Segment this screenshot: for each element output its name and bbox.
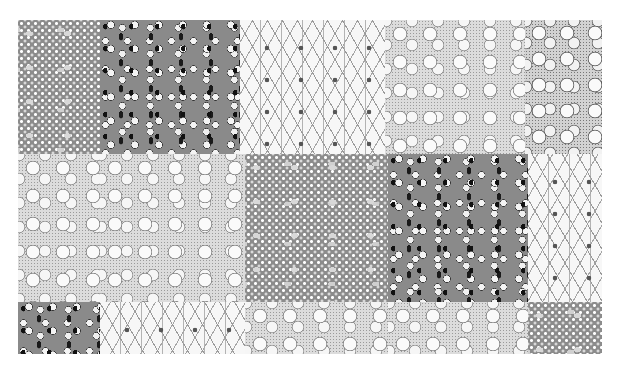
quilt-patch-lattice xyxy=(100,302,245,354)
quilt-patch-dots xyxy=(18,20,100,154)
quilt-patch-dots xyxy=(245,154,388,302)
quilt-patch-floral xyxy=(388,302,528,354)
quilt-patch-floral-dense xyxy=(525,20,602,154)
quilt-patch-floral xyxy=(18,154,100,302)
quilt-patch-floral xyxy=(245,302,388,354)
quilt-patch-lattice xyxy=(528,154,602,302)
quilt-patch-tulip xyxy=(100,20,240,154)
quilt-patch-tulip xyxy=(388,154,528,302)
quilt-patch-tulip xyxy=(18,302,100,354)
quilt-patch-dots xyxy=(528,302,602,354)
quilt-patch-lattice xyxy=(240,20,385,154)
quilt-photo xyxy=(0,0,619,377)
quilt-patch-floral xyxy=(385,20,525,154)
quilt-patch-floral xyxy=(100,154,245,302)
